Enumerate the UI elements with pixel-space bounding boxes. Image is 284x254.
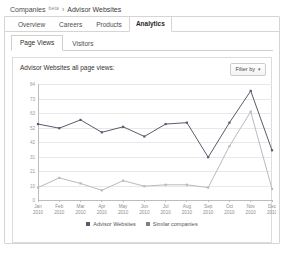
svg-text:2010: 2010	[182, 210, 193, 215]
breadcrumb-companies-link[interactable]: Companies	[10, 6, 45, 13]
svg-text:2010: 2010	[161, 210, 172, 215]
svg-text:Jan: Jan	[34, 204, 42, 209]
filter-by-label: Filter by	[235, 66, 255, 73]
svg-text:31: 31	[30, 155, 36, 160]
svg-text:2010: 2010	[118, 210, 129, 215]
svg-text:2010: 2010	[267, 210, 276, 215]
svg-text:2010: 2010	[33, 210, 44, 215]
tab-products[interactable]: Products	[89, 17, 129, 32]
svg-text:2010: 2010	[75, 210, 86, 215]
breadcrumb: Companies beta › Advisor Websites	[4, 4, 280, 16]
legend-swatch-icon	[86, 222, 90, 226]
svg-text:2010: 2010	[54, 210, 65, 215]
svg-text:10: 10	[30, 184, 36, 189]
svg-text:0: 0	[32, 198, 35, 203]
svg-text:63: 63	[30, 111, 36, 116]
breadcrumb-separator-icon: ›	[62, 6, 64, 13]
sub-tab-bar: Page Views Visitors	[11, 37, 273, 51]
svg-text:2010: 2010	[203, 210, 214, 215]
svg-text:52: 52	[30, 126, 36, 131]
svg-text:2010: 2010	[97, 210, 108, 215]
svg-text:Dec: Dec	[268, 204, 276, 209]
legend-swatch-icon	[146, 222, 150, 226]
svg-text:2010: 2010	[139, 210, 150, 215]
svg-text:42: 42	[30, 140, 36, 145]
sub-tab-bar-wrap: Page Views Visitors	[5, 32, 279, 51]
svg-text:Feb: Feb	[55, 204, 63, 209]
svg-text:2010: 2010	[246, 210, 257, 215]
svg-text:Mar: Mar	[77, 204, 85, 209]
tab-careers[interactable]: Careers	[52, 17, 89, 32]
svg-text:Jul: Jul	[163, 204, 169, 209]
primary-tab-bar: Overview Careers Products Analytics	[5, 17, 279, 32]
line-chart-svg: 01021314252637384Jan2010Feb2010Mar2010Ap…	[18, 80, 276, 222]
svg-text:84: 84	[30, 82, 36, 87]
tab-page-views[interactable]: Page Views	[11, 35, 63, 51]
breadcrumb-current: Advisor Websites	[67, 6, 121, 13]
chart-header: Advisor Websites all page views: Filter …	[18, 63, 266, 76]
chart-plot-area: 01021314252637384Jan2010Feb2010Mar2010Ap…	[18, 80, 266, 220]
chart-card: Advisor Websites all page views: Filter …	[12, 57, 272, 243]
tab-visitors[interactable]: Visitors	[63, 36, 102, 51]
chevron-down-icon: ▾	[258, 66, 261, 73]
analytics-panel: Overview Careers Products Analytics Page…	[4, 16, 280, 244]
filter-by-button[interactable]: Filter by ▾	[230, 63, 266, 76]
svg-text:Oct: Oct	[226, 204, 234, 209]
svg-text:21: 21	[30, 169, 36, 174]
svg-text:73: 73	[30, 97, 36, 102]
svg-text:2010: 2010	[224, 210, 235, 215]
svg-text:Apr: Apr	[98, 204, 106, 209]
svg-text:May: May	[119, 204, 128, 209]
svg-text:Sep: Sep	[204, 204, 213, 209]
page-root: Companies beta › Advisor Websites Overvi…	[0, 0, 284, 254]
svg-text:Jun: Jun	[141, 204, 149, 209]
chart-title: Advisor Websites all page views:	[18, 63, 115, 71]
tab-overview[interactable]: Overview	[11, 17, 52, 32]
tab-analytics[interactable]: Analytics	[129, 16, 172, 32]
svg-text:Aug: Aug	[183, 204, 192, 209]
svg-text:Nov: Nov	[247, 204, 256, 209]
beta-badge: beta	[48, 5, 59, 11]
